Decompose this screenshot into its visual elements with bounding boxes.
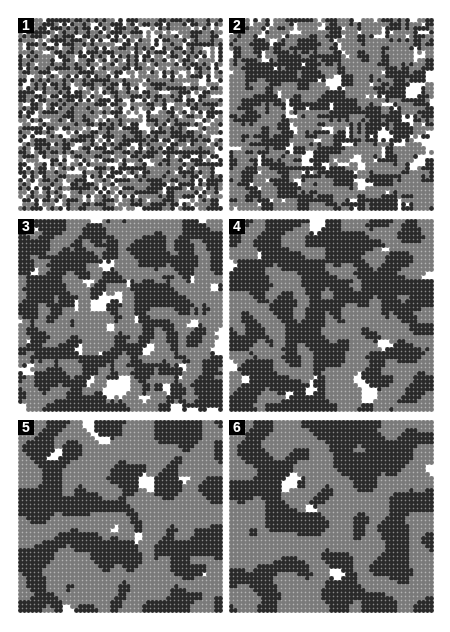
panel-6: 6 — [229, 420, 434, 613]
lattice-grid — [18, 18, 223, 211]
lattice-grid — [229, 420, 434, 613]
lattice-grid — [229, 18, 434, 211]
panel-label: 5 — [18, 420, 34, 435]
panel-1: 1 — [18, 18, 223, 211]
panel-label: 1 — [18, 18, 34, 33]
panel-5: 5 — [18, 420, 223, 613]
panel-3: 3 — [18, 219, 223, 412]
panel-label: 6 — [229, 420, 245, 435]
lattice-grid — [18, 219, 223, 412]
lattice-grid — [18, 420, 223, 613]
lattice-grid — [229, 219, 434, 412]
panel-label: 2 — [229, 18, 245, 33]
panel-2: 2 — [229, 18, 434, 211]
panel-label: 3 — [18, 219, 34, 234]
panel-label: 4 — [229, 219, 245, 234]
panel-4: 4 — [229, 219, 434, 412]
